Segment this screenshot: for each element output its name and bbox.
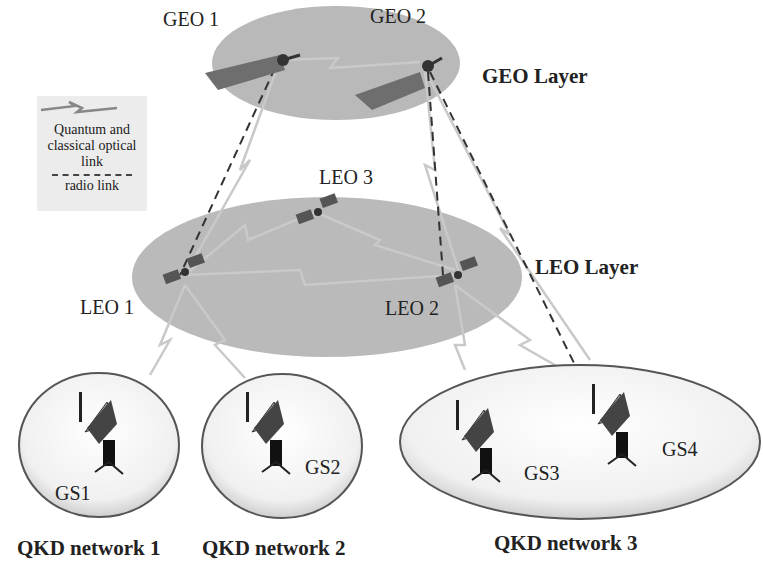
geo-layer-label: GEO Layer: [482, 64, 588, 89]
qkd-network-3-ellipse: [400, 365, 760, 519]
leo1-label: LEO 1: [80, 296, 134, 319]
leo3-label: LEO 3: [319, 166, 373, 189]
legend-radio-link-label: radio link: [37, 178, 147, 194]
qkd-network-2-label: QKD network 2: [202, 536, 346, 561]
dashed-line-icon: [52, 174, 132, 176]
diagram-canvas: [0, 0, 763, 576]
gs4-label: GS4: [662, 438, 698, 461]
gs2-label: GS2: [305, 456, 341, 479]
qkd-network-1-ellipse: [19, 373, 179, 517]
geo2-label: GEO 2: [370, 5, 426, 28]
gs1-label: GS1: [55, 482, 91, 505]
qkd-network-1-label: QKD network 1: [17, 536, 161, 561]
gs3-label: GS3: [524, 462, 560, 485]
legend-box: Quantum and classical optical link radio…: [37, 96, 147, 211]
leo-layer-label: LEO Layer: [535, 255, 638, 280]
geo1-label: GEO 1: [163, 8, 219, 31]
qkd-network-3-label: QKD network 3: [494, 531, 638, 556]
lightning-link-icon: [37, 96, 147, 118]
leo2-label: LEO 2: [385, 297, 439, 320]
legend-optical-link-label: Quantum and classical optical link: [37, 122, 147, 170]
